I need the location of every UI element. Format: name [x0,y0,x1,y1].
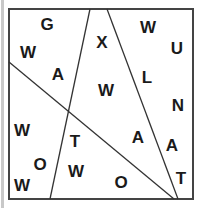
puzzle-letter: N [172,96,184,115]
puzzle-letter: U [171,39,183,58]
puzzle-letter: W [68,162,85,181]
puzzle-letter: T [176,169,187,188]
puzzle-letter: W [98,81,115,100]
puzzle-letter: A [166,136,178,155]
puzzle-letter: A [52,65,64,84]
puzzle-letter: T [70,132,81,151]
puzzle-letter: G [40,15,53,34]
puzzle-letter: O [114,173,127,192]
letter-puzzle-figure: GWAXWULWNAATOTWWOW [0,0,197,208]
puzzle-letter: W [140,18,157,37]
puzzle-letter: X [96,33,108,52]
puzzle-letter: O [33,155,46,174]
puzzle-letter: W [14,176,31,195]
puzzle-letter: L [142,68,152,87]
puzzle-letter: W [14,121,31,140]
puzzle-letter: A [132,128,144,147]
puzzle-letter: W [20,43,37,62]
